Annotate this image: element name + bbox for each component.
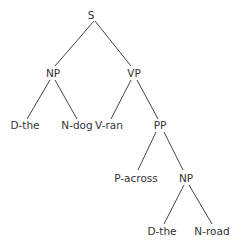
edge-np2-nroad [189, 185, 212, 224]
edge-np-dthe [27, 80, 50, 119]
node-n-road: N-road [194, 225, 229, 237]
edge-vp-pp [137, 80, 158, 119]
node-s: S [88, 9, 95, 21]
edge-np2-dthe [164, 185, 184, 224]
node-pp: PP [154, 119, 167, 131]
node-np: NP [46, 67, 60, 79]
edge-s-np [55, 21, 94, 66]
edge-pp-np [164, 132, 183, 170]
node-d-the: D-the [10, 119, 39, 131]
node-v-ran: V-ran [95, 119, 123, 131]
node-vp: VP [127, 67, 141, 79]
edge-s-vp [95, 21, 131, 66]
node-n-dog: N-dog [61, 119, 92, 131]
syntax-tree-diagram: S NP VP D-the N-dog V-ran PP P-across NP… [0, 0, 241, 247]
edge-vp-vran [111, 80, 131, 119]
node-p-across: P-across [114, 172, 158, 184]
node-np-2: NP [179, 172, 193, 184]
node-d-the-2: D-the [147, 225, 176, 237]
edge-pp-pacross [138, 132, 156, 170]
edge-np-ndog [55, 80, 77, 119]
